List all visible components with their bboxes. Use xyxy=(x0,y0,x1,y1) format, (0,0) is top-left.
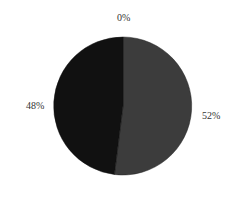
label-slice-a: 52% xyxy=(202,110,220,121)
pie-slice-48 xyxy=(54,37,123,175)
pie-chart: 0% 48% 52% xyxy=(0,0,235,199)
pie-slice-52 xyxy=(114,37,191,175)
label-slice-c: 0% xyxy=(117,12,130,23)
label-slice-b: 48% xyxy=(26,100,44,111)
